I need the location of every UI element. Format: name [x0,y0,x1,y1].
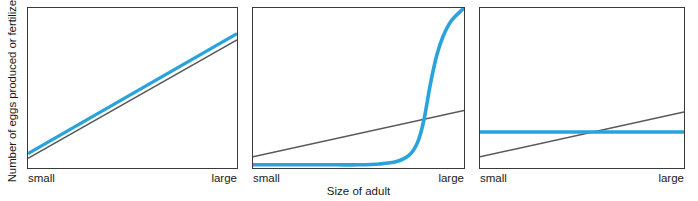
panel-3-xtick-small: small [480,172,507,184]
chart-panel-1 [27,7,238,169]
panel-3-plot [480,8,684,168]
panel-3-xtick-large: large [596,172,684,184]
y-axis-label-text: Number of eggs produced or fertilized [6,0,18,182]
x-axis-label: Size of adult [252,185,465,197]
y-axis-label: Number of eggs produced or fertilized [0,0,24,175]
panel-3-reference-line [480,112,684,157]
panel-1-observed-line [28,34,237,154]
chart-panel-2 [252,7,465,169]
panel-2-reference-line [253,110,464,156]
panel-1-xtick-large: large [148,172,237,184]
panel-2-observed-curve [253,8,464,165]
panel-1-plot [28,8,237,168]
panel-2-plot [253,8,464,168]
panel-2-xtick-small: small [253,172,280,184]
panel-2-xtick-large: large [375,172,464,184]
chart-panel-3 [479,7,685,169]
panel-1-xtick-small: small [28,172,55,184]
panel-1-reference-line [28,40,237,158]
figure-three-panel-egg-production: Number of eggs produced or fertilized sm… [0,0,698,201]
